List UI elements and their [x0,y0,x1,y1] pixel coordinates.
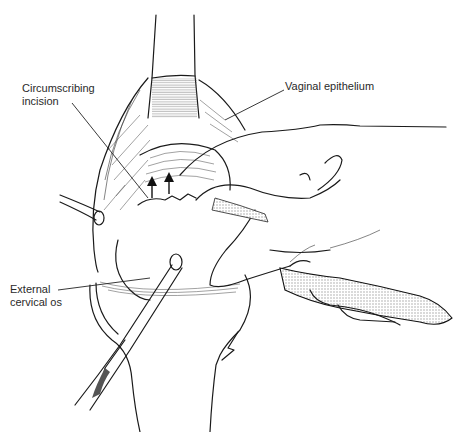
label-vaginal-epithelium: Vaginal epithelium [285,80,374,93]
hand [180,125,446,287]
up-arrows [147,172,174,198]
leader-circumscribing-incision [72,103,148,198]
tenaculum [75,254,182,410]
leader-vaginal-epithelium [225,90,284,120]
label-external-cervical-os: External cervical os [10,283,62,309]
speculum-blade [148,15,199,118]
label-circumscribing-incision: Circumscribing incision [22,82,95,108]
catheter [60,195,104,225]
gloved-finger [280,230,452,325]
surgical-drawing [0,0,460,432]
illustration: Circumscribing incision Vaginal epitheli… [0,0,460,432]
leader-lines [58,90,284,290]
